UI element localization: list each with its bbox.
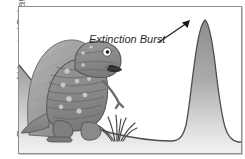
dinosaur-front-leg bbox=[81, 122, 101, 140]
plot-frame: Extinction Burst bbox=[18, 6, 242, 154]
dinosaur-foot bbox=[47, 137, 72, 142]
plot-canvas bbox=[19, 7, 241, 153]
annotation-label: Extinction Burst bbox=[89, 33, 165, 45]
dinosaur-icon bbox=[21, 40, 123, 142]
extinction-burst-figure: Frequency of Unwanted Behavior bbox=[0, 0, 245, 159]
dinosaur-pupil bbox=[106, 50, 110, 54]
